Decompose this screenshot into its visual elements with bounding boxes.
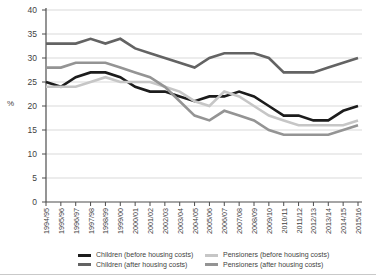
bottom-divider-line <box>0 274 376 275</box>
x-tick-label: 1995/96 <box>57 208 66 234</box>
y-tick-label: 0 <box>32 197 37 207</box>
legend-item: Pensioners (after housing costs) <box>205 261 323 269</box>
x-tick-label: 2007/08 <box>235 208 244 234</box>
x-tick-label: 1998/99 <box>101 208 110 234</box>
y-tick-label: 30 <box>28 53 38 63</box>
x-tick-label: 2000/01 <box>131 208 140 234</box>
x-tick-label: 2005/06 <box>205 208 214 234</box>
legend-item: Pensioners (before housing costs) <box>205 251 329 259</box>
x-tick-label: 1996/97 <box>72 208 81 234</box>
legend-item: Children (before housing costs) <box>78 251 193 259</box>
legend-item: Children (after housing costs) <box>78 261 187 269</box>
legend-swatch <box>78 254 91 257</box>
legend-label: Children (before housing costs) <box>96 251 193 259</box>
y-tick-label: 35 <box>28 29 38 39</box>
legend-label: Children (after housing costs) <box>96 261 187 269</box>
x-tick-label: 1999/00 <box>116 208 125 234</box>
y-tick-label: 25 <box>28 77 38 87</box>
y-tick-label: 40 <box>28 5 38 15</box>
legend-swatch <box>78 263 91 266</box>
x-tick-label: 2003/04 <box>176 208 185 234</box>
legend-label: Pensioners (before housing costs) <box>223 251 329 259</box>
y-tick-label: 10 <box>28 149 38 159</box>
y-tick-label: 15 <box>28 125 38 135</box>
y-tick-label: 5 <box>32 173 37 183</box>
x-tick-label: 2006/07 <box>220 208 229 234</box>
x-tick-label: 1997/98 <box>87 208 96 234</box>
x-tick-label: 2008/09 <box>250 208 259 234</box>
x-tick-label: 2002/03 <box>161 208 170 234</box>
x-tick-label: 2014/15 <box>339 208 348 234</box>
series-line-children-after-housing-costs <box>46 39 358 73</box>
y-tick-label: 20 <box>28 101 38 111</box>
x-tick-label: 2001/02 <box>146 208 155 234</box>
legend-label: Pensioners (after housing costs) <box>223 261 323 269</box>
x-tick-label: 2012/13 <box>309 208 318 234</box>
x-tick-label: 2010/11 <box>280 208 289 233</box>
legend-swatch <box>205 254 218 257</box>
x-tick-label: 2009/10 <box>265 208 274 234</box>
x-tick-label: 1994/95 <box>42 208 51 234</box>
y-axis-unit-label: % <box>7 100 14 108</box>
x-tick-label: 2013/14 <box>324 208 333 234</box>
x-tick-label: 2004/05 <box>191 208 200 234</box>
plot-area: 05101520253035401994/951995/961996/97199… <box>0 0 376 248</box>
series-line-children-before-housing-costs <box>46 72 358 120</box>
legend-swatch <box>205 263 218 266</box>
line-chart-figure: 05101520253035401994/951995/961996/97199… <box>0 0 376 279</box>
x-tick-label: 2011/12 <box>295 208 304 233</box>
x-tick-label: 2015/16 <box>354 208 363 234</box>
